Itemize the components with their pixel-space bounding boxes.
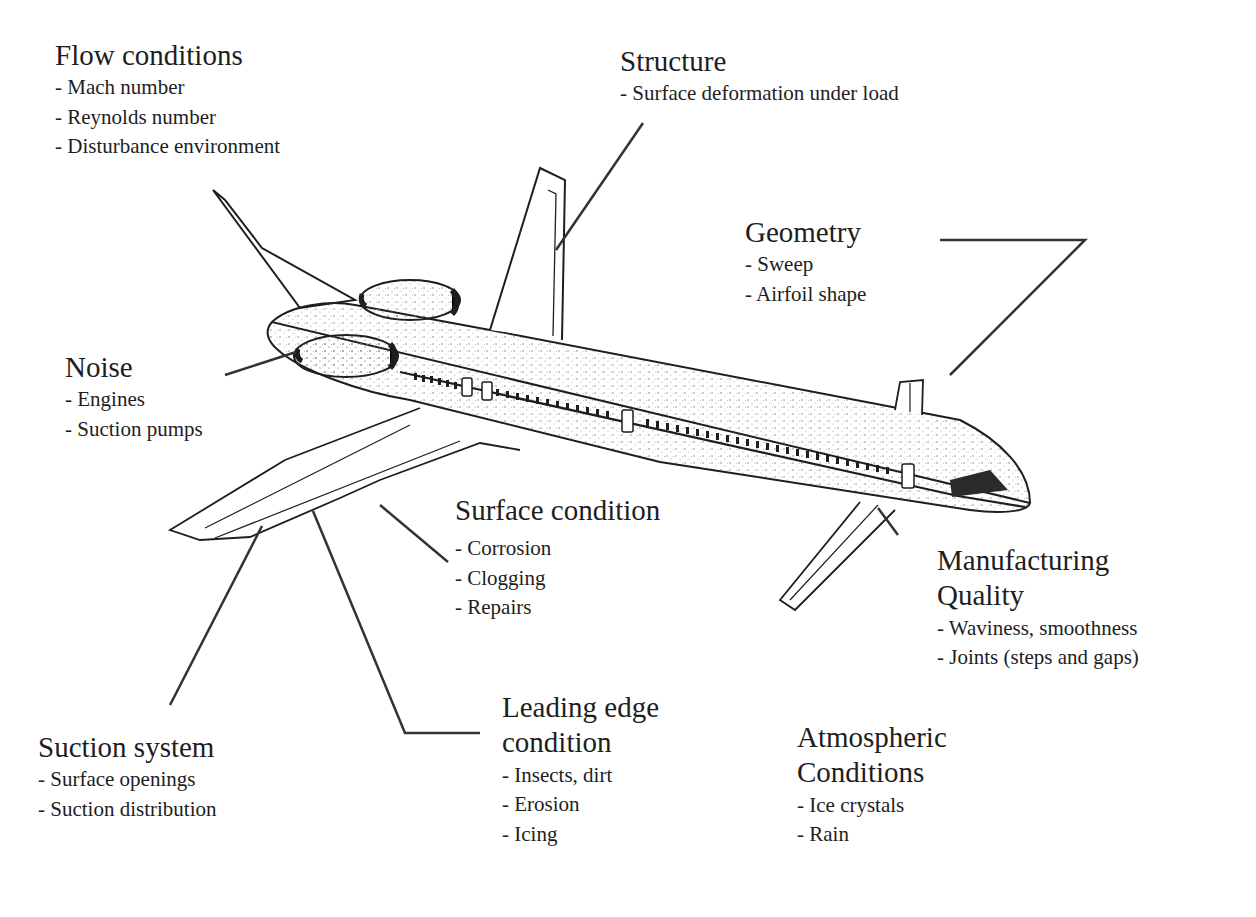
label-item: - Mach number — [55, 73, 280, 102]
label-item: - Surface deformation under load — [620, 79, 899, 108]
label-item: - Surface openings — [38, 765, 217, 794]
label-item: - Engines — [65, 385, 203, 414]
label-item: - Ice crystals — [797, 791, 947, 820]
label-title: Structure — [620, 44, 899, 79]
label-item: - Erosion — [502, 790, 659, 819]
label-item: - Repairs — [455, 593, 660, 622]
label-manufacturing-quality: Manufacturing Quality - Waviness, smooth… — [937, 543, 1139, 673]
label-item: - Disturbance environment — [55, 132, 280, 161]
label-item: - Insects, dirt — [502, 761, 659, 790]
label-geometry: Geometry - Sweep - Airfoil shape — [745, 215, 866, 309]
label-item: - Reynolds number — [55, 103, 280, 132]
label-suction-system: Suction system - Surface openings - Suct… — [38, 730, 217, 824]
label-leading-edge-condition: Leading edge condition - Insects, dirt -… — [502, 690, 659, 849]
label-flow-conditions: Flow conditions - Mach number - Reynolds… — [55, 38, 280, 162]
label-title: Leading edge condition — [502, 690, 659, 761]
label-item: - Suction distribution — [38, 795, 217, 824]
label-item: - Suction pumps — [65, 415, 203, 444]
label-item: - Joints (steps and gaps) — [937, 643, 1139, 672]
label-item: - Clogging — [455, 564, 660, 593]
label-title: Manufacturing Quality — [937, 543, 1139, 614]
label-item: - Rain — [797, 820, 947, 849]
label-item: - Airfoil shape — [745, 280, 866, 309]
label-item: - Corrosion — [455, 534, 660, 563]
label-item: - Waviness, smoothness — [937, 614, 1139, 643]
winglet — [895, 380, 923, 415]
label-structure: Structure - Surface deformation under lo… — [620, 44, 899, 109]
label-title: Atmospheric Conditions — [797, 720, 947, 791]
label-title: Geometry — [745, 215, 866, 250]
label-surface-condition: Surface condition - Corrosion - Clogging… — [455, 493, 660, 623]
label-item: - Sweep — [745, 250, 866, 279]
label-noise: Noise - Engines - Suction pumps — [65, 350, 203, 444]
label-item: - Icing — [502, 820, 659, 849]
label-title: Surface condition — [455, 493, 660, 528]
right-wing — [780, 502, 895, 610]
label-atmospheric-conditions: Atmospheric Conditions - Ice crystals - … — [797, 720, 947, 850]
label-title: Flow conditions — [55, 38, 280, 73]
label-title: Noise — [65, 350, 203, 385]
label-title: Suction system — [38, 730, 217, 765]
